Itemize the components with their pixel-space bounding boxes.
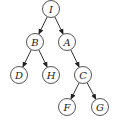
node-label: D: [14, 70, 23, 81]
tree-node-B: B: [27, 34, 44, 51]
tree-node-I: I: [43, 1, 60, 18]
edge-C-F: [71, 83, 79, 99]
edge-I-B: [39, 17, 47, 34]
node-label: B: [30, 37, 38, 48]
node-label: A: [62, 37, 70, 48]
tree-node-H: H: [43, 67, 60, 84]
edge-B-D: [23, 50, 31, 67]
binary-tree-diagram: IBADHCFG: [0, 0, 115, 120]
node-label: C: [79, 70, 87, 81]
node-label: H: [46, 70, 56, 81]
tree-node-C: C: [75, 67, 92, 84]
tree-node-A: A: [59, 34, 76, 51]
edge-A-C: [71, 50, 79, 67]
nodes: IBADHCFG: [11, 1, 109, 116]
edges: [23, 17, 96, 99]
edge-B-H: [39, 50, 47, 67]
tree-node-F: F: [59, 99, 76, 116]
tree-node-G: G: [92, 99, 109, 116]
tree-node-D: D: [11, 67, 28, 84]
edge-I-A: [55, 17, 63, 34]
node-label: F: [63, 102, 72, 113]
node-label: G: [96, 102, 104, 113]
edge-C-G: [87, 83, 96, 100]
